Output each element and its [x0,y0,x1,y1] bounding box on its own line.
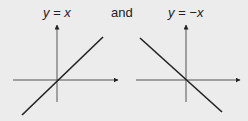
left-line-y-equals-x [22,37,103,115]
left-graph [13,25,118,115]
graphs-canvas [0,0,248,121]
right-graph [136,25,240,112]
right-line-y-equals-neg-x [140,38,222,112]
